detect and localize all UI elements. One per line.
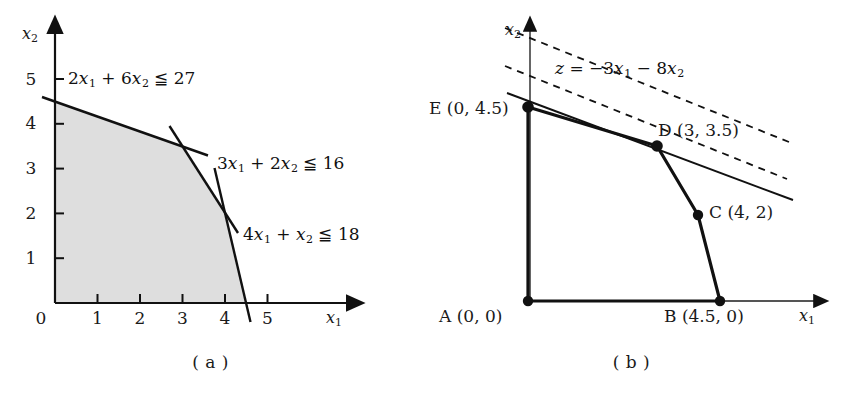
vertex-dot-D	[651, 140, 663, 152]
panel-b-x-axis-label: x1	[799, 308, 815, 326]
panel-a-x-axis-label: x1	[326, 310, 342, 328]
panel-b-y-axis-label: x2	[505, 22, 521, 40]
vertex-dot-E	[522, 101, 534, 113]
vertex-dot-A	[523, 296, 533, 306]
objective-line-dashed-upper	[505, 28, 789, 142]
figure-root: x2 x1 0 1 2 3 4 5 1 2 3 4 5 2x1 + 6x2 ≦ …	[0, 0, 842, 398]
panel-b-caption: ( b )	[421, 352, 842, 372]
panel-a-x-tick-2: 2	[130, 310, 150, 327]
panel-a-x-tick-1: 1	[88, 310, 108, 327]
vertex-label-A: A (0, 0)	[439, 308, 502, 325]
panel-a-y-tick-1: 1	[21, 250, 41, 267]
objective-function-label: z = −3x1 − 8x2	[555, 60, 684, 79]
vertex-label-C: C (4, 2)	[709, 204, 773, 221]
panel-a-x-tick-5: 5	[258, 310, 278, 327]
vertex-label-B: B (4.5, 0)	[664, 308, 744, 325]
constraint-label-1: 2x1 + 6x2 ≦ 27	[68, 70, 195, 89]
panel-a-x-tick-0: 0	[31, 310, 51, 327]
panel-a-y-tick-2: 2	[21, 205, 41, 222]
vertex-dot-B	[715, 296, 725, 306]
objective-line-optimal-solid	[507, 93, 793, 200]
panel-a-y-tick-3: 3	[21, 160, 41, 177]
vertex-label-E: E (0, 4.5)	[429, 100, 509, 117]
panel-a-y-tick-4: 4	[21, 115, 41, 132]
vertex-label-D: D (3, 3.5)	[658, 122, 739, 139]
panel-a-feasible-region: x2 x1 0 1 2 3 4 5 1 2 3 4 5 2x1 + 6x2 ≦ …	[0, 0, 421, 398]
constraint-label-3: 4x1 + x2 ≦ 18	[243, 226, 360, 245]
vertex-dot-C	[693, 210, 703, 220]
panel-a-x-tick-4: 4	[215, 310, 235, 327]
constraint-label-2: 3x1 + 2x2 ≦ 16	[217, 155, 344, 174]
panel-b-optimum: x2 x1 z = −3x1 − 8x2 E (0, 4.5) A (0, 0)…	[421, 0, 842, 398]
panel-a-plot	[0, 0, 421, 398]
panel-a-caption: ( a )	[0, 352, 421, 372]
objective-line-dashed-middle	[505, 66, 787, 179]
panel-a-y-tick-5: 5	[21, 71, 41, 88]
panel-a-y-axis-label: x2	[22, 26, 38, 44]
panel-a-x-tick-3: 3	[173, 310, 193, 327]
